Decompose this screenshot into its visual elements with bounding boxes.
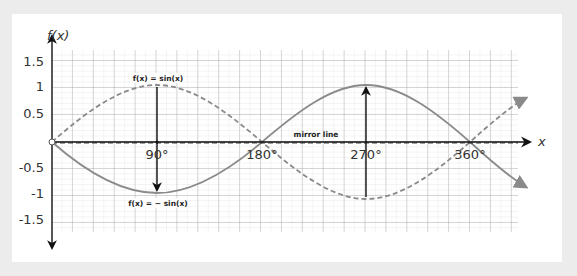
x-tick-270: 270° xyxy=(350,147,381,162)
y-tick-0.5: 0.5 xyxy=(23,106,44,121)
x-tick-180: 180° xyxy=(246,147,277,162)
arrow-cross-90 xyxy=(156,141,159,144)
neg-sin-label: f(x) = − sin(x) xyxy=(128,199,187,208)
mirror-line-label: mirror line xyxy=(294,130,339,139)
x-tick-90: 90° xyxy=(145,147,168,162)
y-tick-1.5: 1.5 xyxy=(23,54,44,69)
y-tick-1: 1 xyxy=(36,79,44,94)
x-tick-360: 360° xyxy=(454,147,485,162)
grid xyxy=(52,50,518,232)
sin-label: f(x) = sin(x) xyxy=(133,74,184,83)
y-axis-label: f(x) xyxy=(47,28,69,43)
y-tick-neg1.5: -1.5 xyxy=(19,212,44,227)
x-axis-label: x xyxy=(537,134,546,149)
sine-chart: f(x) x 1.5 1 0.5 -0.5 -1 -1.5 90° 180° 2… xyxy=(0,0,577,276)
y-tick-neg0.5: -0.5 xyxy=(19,160,44,175)
y-tick-neg1: -1 xyxy=(31,186,44,201)
origin-point xyxy=(49,139,55,145)
